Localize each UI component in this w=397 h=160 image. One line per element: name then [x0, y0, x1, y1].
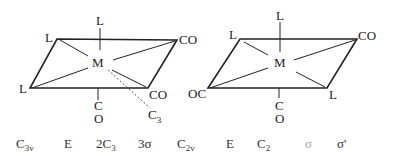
- bond-bl: [32, 68, 88, 88]
- fac-isomer-diagram: L M L CO L CO C O C3: [19, 13, 197, 126]
- op-identity-2: E: [226, 136, 234, 152]
- c3-axis-label: C3: [148, 107, 162, 125]
- op-2c3: 2C3: [96, 136, 116, 153]
- axial-top-label: L: [276, 8, 284, 23]
- corner-bl-label: OC: [188, 86, 206, 101]
- c3-axis-dashed: [108, 70, 150, 108]
- mer-isomer-diagram: L M L CO OC L C O: [188, 8, 376, 126]
- bond-tl: [60, 40, 88, 56]
- bond-tl: [244, 42, 268, 55]
- corner-br-label: L: [329, 87, 337, 102]
- bond-tr: [113, 41, 175, 60]
- corner-tr-label: CO: [358, 28, 376, 43]
- op-identity: E: [64, 136, 72, 152]
- corner-tl-label: L: [229, 27, 237, 42]
- point-group-c3v: C3v: [16, 136, 34, 153]
- corner-br-label: CO: [149, 87, 167, 102]
- symmetry-operations-row: C3v E 2C3 3σ C2v E C2 σ σ': [0, 136, 397, 156]
- isomer-diagrams: L M L CO L CO C O C3 L M L CO OC L C O: [0, 0, 397, 135]
- op-c2: C2: [257, 136, 270, 153]
- axial-bottom-o: O: [275, 111, 284, 126]
- axial-bottom-o: O: [94, 111, 103, 126]
- axial-top-label: L: [96, 13, 104, 28]
- bond-br: [296, 72, 325, 87]
- metal-label: M: [92, 55, 104, 70]
- op-sigma: σ: [305, 136, 312, 152]
- metal-label: M: [274, 55, 286, 70]
- corner-bl-label: L: [19, 81, 27, 96]
- point-group-c2v: C2v: [177, 136, 195, 153]
- corner-tr-label: CO: [179, 32, 197, 47]
- op-sigma-prime: σ': [337, 136, 346, 152]
- corner-tl-label: L: [45, 30, 53, 45]
- op-3sigma: 3σ: [138, 136, 152, 152]
